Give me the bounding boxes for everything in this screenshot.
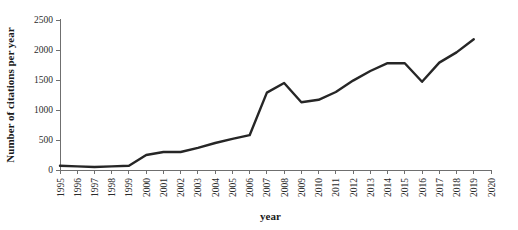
x-tick-label: 1995 — [56, 178, 66, 197]
x-tick-label: 1996 — [73, 178, 83, 197]
chart-container: 0500100015002000250019951996199719981999… — [0, 0, 518, 230]
y-tick-label: 1000 — [34, 105, 53, 115]
x-tick-label: 2013 — [366, 178, 376, 197]
x-tick-label: 1997 — [90, 178, 100, 197]
x-tick-label: 2017 — [435, 178, 445, 197]
x-tick-label: 2009 — [297, 178, 307, 197]
x-tick-label: 2008 — [280, 178, 290, 197]
x-tick-label: 2015 — [400, 178, 410, 197]
x-tick-label: 2011 — [331, 178, 341, 197]
x-tick-label: 2006 — [245, 178, 255, 197]
x-tick-label: 2014 — [383, 178, 393, 197]
x-tick-label: 2000 — [142, 178, 152, 197]
x-tick-label: 2019 — [469, 178, 479, 197]
x-axis-title: year — [260, 210, 281, 222]
x-tick-label: 2016 — [418, 178, 428, 197]
plot-area: 0500100015002000250019951996199719981999… — [4, 15, 497, 222]
x-tick-label: 2020 — [487, 178, 497, 197]
x-tick-label: 2012 — [349, 178, 359, 197]
x-tick-label: 1998 — [107, 178, 117, 197]
y-tick-label: 0 — [48, 165, 53, 175]
y-tick-label: 2500 — [34, 15, 53, 25]
x-tick-label: 1999 — [124, 178, 134, 197]
y-tick-label: 500 — [39, 135, 54, 145]
y-axis-title: Number of citations per year — [4, 27, 16, 162]
x-tick-label: 2002 — [176, 178, 186, 197]
y-tick-label: 2000 — [34, 45, 53, 55]
x-tick-label: 2001 — [159, 178, 169, 197]
x-tick-label: 2005 — [228, 178, 238, 197]
citations-per-year-line-chart: 0500100015002000250019951996199719981999… — [0, 0, 518, 230]
x-tick-label: 2003 — [193, 178, 203, 197]
x-tick-label: 2007 — [262, 178, 272, 197]
x-tick-label: 2018 — [452, 178, 462, 197]
y-tick-label: 1500 — [34, 75, 53, 85]
x-tick-label: 2004 — [211, 178, 221, 197]
data-series-line — [60, 39, 474, 167]
x-tick-label: 2010 — [314, 178, 324, 197]
